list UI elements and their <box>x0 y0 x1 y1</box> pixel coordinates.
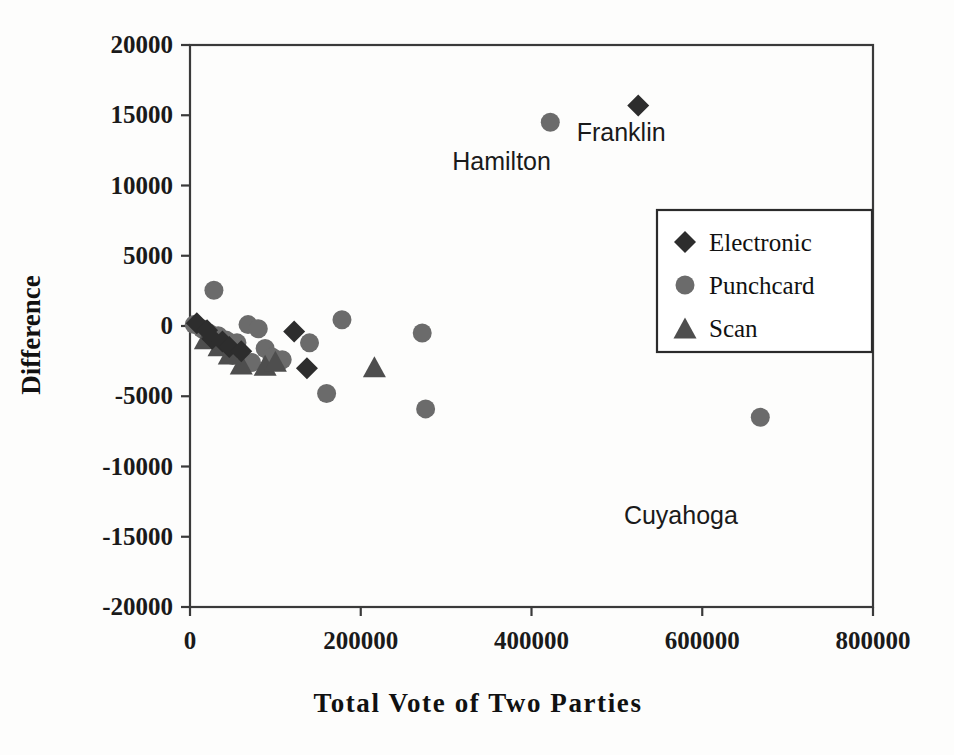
x-tick-label: 200000 <box>323 627 398 654</box>
legend-item-label: Punchcard <box>709 272 815 299</box>
y-axis-tick-labels: 20000150001000050000-5000-10000-15000-20… <box>102 31 173 620</box>
y-tick-label: -20000 <box>102 593 173 620</box>
marker-circle <box>332 310 351 329</box>
marker-circle <box>541 113 560 132</box>
annotation-cuyahoga: Cuyahoga <box>624 501 738 529</box>
y-tick-label: 20000 <box>111 31 174 58</box>
legend-item-label: Electronic <box>709 229 812 256</box>
marker-circle <box>416 399 435 418</box>
y-axis-title: Difference <box>16 275 46 394</box>
marker-diamond <box>296 357 318 379</box>
y-tick-label: -5000 <box>115 382 173 409</box>
y-tick-label: 10000 <box>111 172 174 199</box>
y-tick-label: -15000 <box>102 523 173 550</box>
x-tick-label: 0 <box>184 627 197 654</box>
y-tick-label: 15000 <box>111 101 174 128</box>
marker-circle <box>204 281 223 300</box>
marker-circle <box>249 319 268 338</box>
x-tick-label: 400000 <box>494 627 569 654</box>
legend-item-label: Scan <box>709 315 758 342</box>
y-tick-label: 0 <box>161 312 174 339</box>
marker-circle <box>413 324 432 343</box>
marker-circle <box>751 408 770 427</box>
x-axis-title: Total Vote of Two Parties <box>314 688 643 718</box>
marker-triangle <box>363 356 386 377</box>
marker-circle <box>676 276 695 295</box>
marker-circle <box>300 333 319 352</box>
scatter-chart: 20000150001000050000-5000-10000-15000-20… <box>0 0 954 755</box>
x-axis-ticks <box>190 607 873 616</box>
chart-page: 20000150001000050000-5000-10000-15000-20… <box>0 0 954 755</box>
x-tick-label: 800000 <box>836 627 911 654</box>
x-axis-tick-labels: 0200000400000600000800000 <box>184 627 911 654</box>
y-tick-label: -10000 <box>102 453 173 480</box>
annotation-hamilton: Hamilton <box>452 147 551 175</box>
marker-circle <box>317 384 336 403</box>
y-tick-label: 5000 <box>123 242 173 269</box>
annotation-franklin: Franklin <box>577 118 666 146</box>
chart-legend: ElectronicPunchcardScan <box>657 210 872 352</box>
x-tick-label: 600000 <box>665 627 740 654</box>
marker-diamond <box>627 94 649 116</box>
